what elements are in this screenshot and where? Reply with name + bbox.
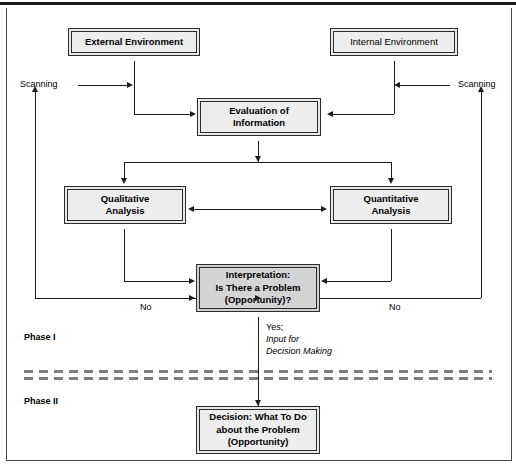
box-label-internal-environment: Internal Environment — [350, 36, 438, 49]
box-label-interpretation: Interpretation: Is There a Problem (Oppo… — [215, 269, 300, 307]
box-inner: External Environment — [71, 31, 197, 53]
arrowhead-into-quantitative — [388, 178, 394, 184]
box-interpretation[interactable]: Interpretation: Is There a Problem (Oppo… — [196, 264, 320, 312]
connector-qualitative-to-interpretation — [124, 281, 190, 282]
label-no-right: No — [389, 302, 401, 312]
box-inner: Interpretation: Is There a Problem (Oppo… — [199, 267, 317, 309]
connector-external-to-evaluation — [134, 114, 191, 115]
top-rule — [0, 2, 516, 5]
box-label-qualitative: Qualitative Analysis — [101, 193, 150, 218]
connector-no-right-vertical — [481, 92, 482, 298]
label-no-left: No — [140, 302, 152, 312]
quantitative-line-1: Quantitative — [364, 193, 419, 206]
phase-divider-top — [24, 370, 492, 373]
box-external-environment[interactable]: External Environment — [68, 28, 200, 56]
interpretation-line-2: Is There a Problem — [215, 282, 300, 295]
interpretation-line-1: Interpretation: — [215, 269, 300, 282]
box-label-external-environment: External Environment — [85, 36, 183, 49]
arrowhead-no-right-join — [255, 295, 261, 301]
label-phase-two: Phase II — [24, 396, 58, 406]
box-label-quantitative: Quantitative Analysis — [364, 193, 419, 218]
arrowhead-no-right-up — [478, 86, 484, 92]
box-internal-environment[interactable]: Internal Environment — [330, 28, 458, 56]
arrowhead-scanning-left — [127, 82, 133, 88]
box-inner: Evaluation of Information — [200, 101, 318, 133]
connector-no-right-horizontal — [320, 298, 481, 299]
connector-qualitative-down — [124, 229, 125, 281]
connector-split-horizontal — [124, 162, 392, 163]
box-qualitative-analysis[interactable]: Qualitative Analysis — [64, 186, 186, 224]
figure-frame — [6, 8, 512, 461]
connector-scanning-right — [400, 85, 450, 86]
arrowhead-into-evaluation-left — [190, 111, 196, 117]
label-yes: Yes; — [266, 322, 283, 332]
box-inner: Internal Environment — [333, 31, 455, 53]
qualitative-line-2: Analysis — [101, 205, 150, 218]
arrowhead-no-left-join — [189, 295, 195, 301]
box-evaluation-of-information[interactable]: Evaluation of Information — [197, 98, 321, 136]
arrowhead-into-interpretation-right — [321, 278, 327, 284]
connector-internal-down — [394, 61, 395, 114]
evaluation-line-2: Information — [229, 117, 289, 130]
diagram-canvas: External Environment Internal Environmen… — [0, 0, 516, 467]
decision-line-2: about the Problem — [209, 424, 306, 437]
connector-scanning-left — [78, 85, 128, 86]
evaluation-line-1: Evaluation of — [229, 105, 289, 118]
arrowhead-scanning-right — [394, 82, 400, 88]
arrowhead-no-left-up — [32, 86, 38, 92]
arrowhead-toward-qualitative — [188, 206, 194, 212]
quantitative-line-2: Analysis — [364, 205, 419, 218]
label-decision-making: Decision Making — [266, 346, 332, 356]
arrowhead-into-qualitative — [121, 178, 127, 184]
box-inner: Qualitative Analysis — [67, 189, 183, 221]
label-scanning-left: Scanning — [20, 79, 58, 89]
box-label-decision: Decision: What To Do about the Problem (… — [209, 411, 306, 449]
arrowhead-into-decision — [255, 400, 261, 406]
arrowhead-into-evaluation-right — [327, 111, 333, 117]
connector-external-down — [134, 61, 135, 114]
connector-quantitative-down — [391, 229, 392, 281]
connector-quantitative-to-interpretation — [327, 281, 391, 282]
box-inner: Quantitative Analysis — [333, 189, 449, 221]
connector-internal-to-evaluation — [333, 114, 394, 115]
arrowhead-toward-quantitative — [321, 206, 327, 212]
arrowhead-into-interpretation-left — [189, 278, 195, 284]
connector-yes-down — [258, 317, 259, 406]
box-decision[interactable]: Decision: What To Do about the Problem (… — [196, 406, 320, 454]
decision-line-3: (Opportunity) — [209, 436, 306, 449]
connector-qual-quant-bidirectional — [194, 209, 322, 210]
decision-line-1: Decision: What To Do — [209, 411, 306, 424]
label-input-for: Input for — [266, 334, 299, 344]
qualitative-line-1: Qualitative — [101, 193, 150, 206]
label-phase-one: Phase I — [24, 332, 56, 342]
box-quantitative-analysis[interactable]: Quantitative Analysis — [330, 186, 452, 224]
box-label-evaluation: Evaluation of Information — [229, 105, 289, 130]
box-inner: Decision: What To Do about the Problem (… — [199, 409, 317, 451]
connector-no-left-vertical — [35, 92, 36, 298]
connector-no-left-horizontal — [35, 298, 196, 299]
phase-divider-bottom — [24, 377, 492, 380]
